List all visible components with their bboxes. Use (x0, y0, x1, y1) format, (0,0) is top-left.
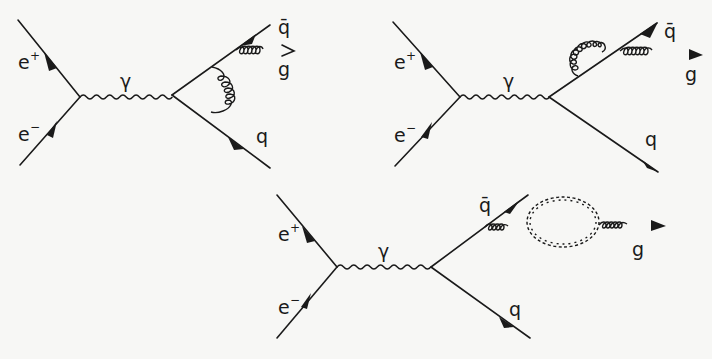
label-gluon: g (685, 63, 697, 85)
label-e-plus: e (18, 51, 30, 73)
label-gluon: g (278, 58, 290, 80)
svg-text:+: + (30, 49, 40, 63)
arrow-icon (504, 200, 520, 214)
svg-text:+: + (290, 221, 300, 235)
quark-line (549, 97, 658, 172)
label-e-minus: e (278, 296, 290, 318)
label-photon: γ (120, 70, 131, 92)
label-antiquark: q̄ (664, 20, 676, 42)
svg-text:−: − (30, 120, 40, 134)
label-quark: q (256, 125, 268, 147)
arrow-icon (47, 121, 57, 138)
gluon-arrow-icon (651, 220, 666, 231)
svg-text:−: − (406, 121, 416, 135)
label-gluon: g (632, 238, 644, 260)
gluon-arrow-icon (282, 45, 294, 56)
arrow-icon (302, 226, 315, 243)
photon-propagator (80, 95, 172, 99)
gluon-outgoing (599, 222, 627, 228)
gluon-incoming-segment (485, 224, 508, 230)
arrow-icon (301, 293, 311, 309)
gluon-loop-curls (530, 200, 596, 244)
label-e-minus: e (394, 124, 406, 146)
label-antiquark: q̄ (479, 194, 491, 216)
arrow-icon (420, 52, 433, 70)
arrow-icon (421, 122, 432, 139)
arrow-icon (640, 22, 658, 38)
label-antiquark: q̄ (278, 16, 290, 38)
diagram-vertex-correction: e + e − γ q̄ g q (18, 16, 294, 168)
arrow-icon (228, 137, 244, 150)
label-e-plus: e (278, 223, 290, 245)
gluon-vertex-loop (211, 67, 235, 113)
label-photon: γ (503, 70, 514, 92)
photon-propagator (337, 265, 431, 269)
label-quark: q (645, 128, 657, 150)
diagram-gluon-self-energy: e + e − γ q̄ g q (277, 194, 666, 338)
label-e-plus: e (394, 51, 406, 73)
svg-text:−: − (290, 293, 300, 307)
photon-propagator (460, 95, 550, 99)
label-quark: q (509, 298, 521, 320)
arrow-icon (44, 52, 57, 71)
diagram-quark-self-energy: e + e − γ q̄ g q (393, 20, 703, 172)
label-e-minus: e (18, 123, 30, 145)
gluon-outgoing (236, 46, 263, 54)
feynman-diagrams: e + e − γ q̄ g q e + e − γ q̄ g q (0, 0, 712, 359)
svg-text:+: + (406, 49, 416, 63)
label-photon: γ (378, 240, 389, 262)
gluon-arrow-icon (689, 49, 703, 60)
gluon-outgoing (620, 47, 652, 55)
gluon-loop (527, 197, 599, 247)
